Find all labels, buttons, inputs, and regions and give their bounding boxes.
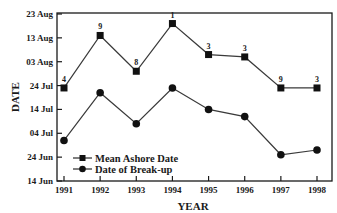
point-label: 8 xyxy=(134,58,138,67)
circle-marker xyxy=(241,113,249,121)
point-label: 3 xyxy=(315,75,319,84)
point-label: 4 xyxy=(62,75,66,84)
square-marker xyxy=(205,51,212,58)
series-group: 49813393 xyxy=(60,11,321,159)
y-tick-label: 24 Jun xyxy=(27,152,53,162)
y-tick-label: 13 Aug xyxy=(26,33,53,43)
x-tick-label: 1998 xyxy=(308,185,327,195)
point-label: 3 xyxy=(243,44,247,53)
x-tick-label: 1992 xyxy=(91,185,110,195)
square-marker xyxy=(314,84,321,91)
legend-circle-marker xyxy=(79,166,86,173)
legend: Mean Ashore DateDate of Break-up xyxy=(73,153,179,175)
circle-marker xyxy=(205,106,213,114)
square-marker xyxy=(133,68,140,75)
point-label: 1 xyxy=(170,11,174,20)
line-chart: 14 Jun24 Jun04 Jul14 Jul24 Jul03 Aug13 A… xyxy=(0,0,337,213)
legend-label: Mean Ashore Date xyxy=(95,153,179,164)
square-marker xyxy=(277,84,284,91)
x-tick-label: 1993 xyxy=(127,185,146,195)
circle-marker xyxy=(313,146,321,154)
y-tick-label: 03 Aug xyxy=(26,57,53,67)
legend-label: Date of Break-up xyxy=(95,164,173,175)
square-marker xyxy=(241,53,248,60)
circle-marker xyxy=(60,137,68,145)
y-axis-title: DATE xyxy=(9,82,21,112)
circle-marker xyxy=(277,151,285,159)
y-tick-label: 04 Jul xyxy=(30,128,54,138)
x-axis-title: YEAR xyxy=(177,200,209,212)
circle-marker xyxy=(169,84,177,92)
point-label: 3 xyxy=(207,42,211,51)
y-tick-label: 14 Jul xyxy=(30,104,54,114)
y-tick-label: 23 Aug xyxy=(26,9,53,19)
x-tick-label: 1997 xyxy=(272,185,291,195)
square-marker xyxy=(61,84,68,91)
legend-square-marker xyxy=(80,155,86,161)
x-tick-label: 1991 xyxy=(55,185,74,195)
y-tick-label: 14 Jun xyxy=(27,176,53,186)
circle-marker xyxy=(132,120,140,128)
x-axis: 19911992199319941995199619971998 xyxy=(55,176,327,195)
y-tick-label: 24 Jul xyxy=(30,81,54,91)
square-marker xyxy=(169,20,176,27)
x-tick-label: 1995 xyxy=(200,185,219,195)
x-tick-label: 1994 xyxy=(163,185,182,195)
series-line-break-up xyxy=(64,88,317,155)
square-marker xyxy=(97,32,104,39)
point-label: 9 xyxy=(279,75,283,84)
circle-marker xyxy=(96,89,104,97)
point-label: 9 xyxy=(98,22,102,31)
x-tick-label: 1996 xyxy=(236,185,255,195)
